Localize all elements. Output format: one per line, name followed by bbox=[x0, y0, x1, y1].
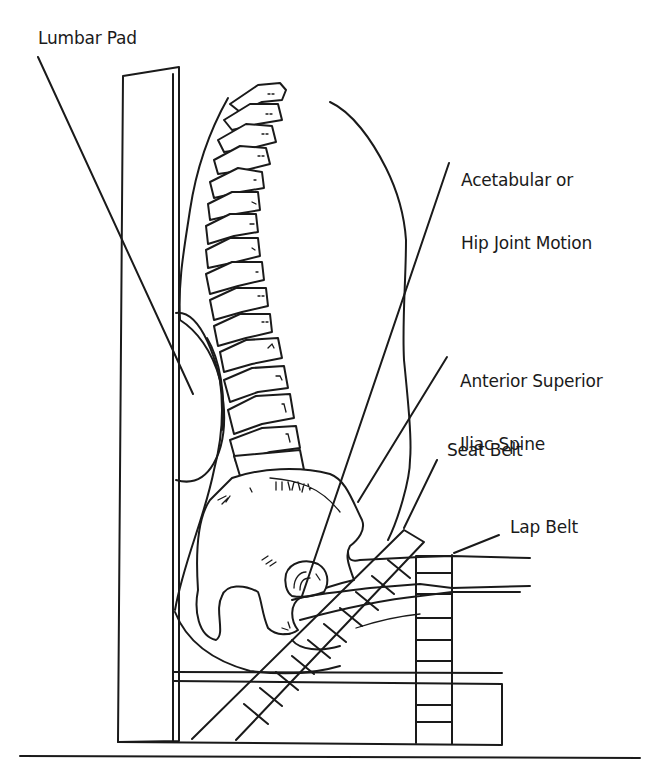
leader-acetabular bbox=[302, 163, 449, 596]
thigh-lower bbox=[292, 640, 340, 649]
leader-asis bbox=[358, 357, 447, 502]
femur-inner-line bbox=[356, 614, 420, 628]
leader-lap-belt bbox=[454, 535, 499, 553]
label-asis-line1: Anterior Superior bbox=[460, 371, 603, 392]
floor-line bbox=[20, 756, 640, 758]
abdomen-contour bbox=[330, 102, 411, 540]
label-acetabular-line2: Hip Joint Motion bbox=[461, 233, 592, 254]
label-lumbar-pad: Lumbar Pad bbox=[38, 28, 137, 49]
seat-backrest bbox=[118, 67, 179, 742]
leader-lumbar-pad bbox=[38, 57, 193, 394]
label-seat-belt: Seat Belt bbox=[447, 440, 522, 461]
lumbar-spine bbox=[206, 83, 300, 462]
label-acetabular-line1: Acetabular or bbox=[461, 170, 592, 191]
pelvis bbox=[197, 469, 363, 640]
seat-base bbox=[118, 681, 502, 745]
label-acetabular: Acetabular or Hip Joint Motion bbox=[461, 128, 592, 275]
label-lap-belt: Lap Belt bbox=[510, 517, 578, 538]
